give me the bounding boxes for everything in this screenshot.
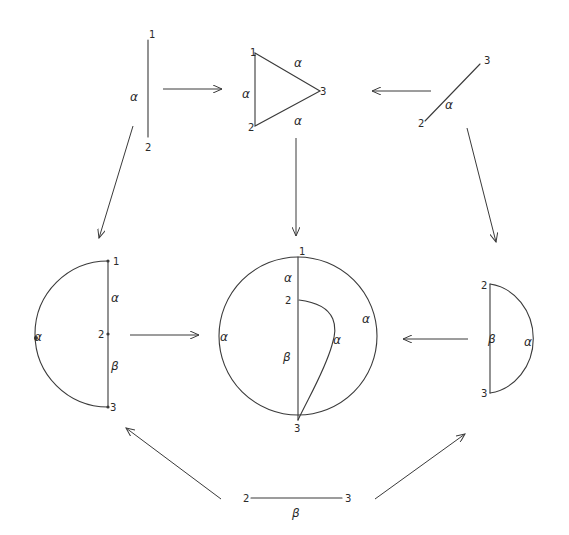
edge-label-23: β [110, 359, 119, 373]
edge-label-23: β [487, 332, 496, 346]
node-halfdisc-right: 2 3 β α [481, 280, 533, 399]
edge-label-beta: β [291, 506, 300, 520]
inner-curve [298, 300, 335, 420]
arrow-segment12-to-halfdisc-left [99, 126, 133, 238]
edge-label-13: α [294, 56, 302, 70]
inner-curve-label: α [333, 333, 341, 347]
vertex-label-1: 1 [149, 29, 155, 40]
arrow-segment23beta-to-halfdisc-left [126, 428, 221, 499]
vertex-label-3: 3 [320, 86, 326, 97]
vertex-label-1: 1 [113, 256, 119, 267]
vertex-label-2: 2 [481, 280, 487, 291]
vertex-label-2: 2 [285, 295, 291, 306]
edge-label-23: β [282, 350, 291, 364]
arc-label: α [524, 335, 532, 349]
node-segment-23-beta: 2 3 β [243, 493, 351, 520]
arrow-segment23-to-halfdisc-right [467, 128, 496, 242]
vertex-label-2: 2 [243, 493, 249, 504]
arrow-segment23beta-to-halfdisc-right [375, 434, 465, 499]
vertex-label-2: 2 [248, 122, 254, 133]
edge-label-alpha: α [130, 90, 138, 104]
vertex-dot-2 [106, 332, 109, 335]
edge-label-12: α [242, 87, 250, 101]
arc-right-label: α [362, 312, 370, 326]
vertex-label-2: 2 [418, 118, 424, 129]
node-segment-12-alpha: 1 2 α [130, 29, 155, 153]
vertex-label-3: 3 [294, 423, 300, 434]
diagram-canvas: 1 2 α 1 2 3 α α α 3 2 α 1 2 3 α β α [0, 0, 569, 535]
edge-line [425, 64, 480, 121]
cell-complex-diagram: 1 2 α 1 2 3 α α α 3 2 α 1 2 3 α β α [0, 0, 569, 535]
node-segment-23-alpha: 3 2 α [418, 55, 490, 129]
node-halfdisc-left: 1 2 3 α β α [34, 256, 119, 413]
node-triangle-123-alpha: 1 2 3 α α α [242, 47, 326, 133]
edge-label-12: α [111, 291, 119, 305]
vertex-label-1: 1 [299, 246, 305, 257]
vertex-label-3: 3 [110, 402, 116, 413]
edge-label-23: α [294, 114, 302, 128]
vertex-label-3: 3 [345, 493, 351, 504]
arc-label: α [34, 330, 42, 344]
vertex-label-2: 2 [145, 142, 151, 153]
edge-label-12: α [284, 271, 292, 285]
vertex-label-1: 1 [250, 47, 256, 58]
triangle-shape [255, 53, 320, 126]
arc-left-label: α [220, 330, 228, 344]
vertex-dot-1 [106, 259, 109, 262]
node-disc-center: 1 2 3 α β α α α [219, 246, 377, 434]
edge-label-alpha: α [445, 98, 453, 112]
vertex-label-3: 3 [481, 388, 487, 399]
vertex-label-2: 2 [98, 329, 104, 340]
vertex-label-3: 3 [484, 55, 490, 66]
